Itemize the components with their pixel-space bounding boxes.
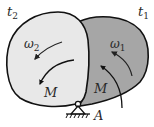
diagram-svg — [0, 0, 154, 127]
label-moment-right: M — [94, 82, 107, 95]
label-pivot-A: A — [94, 109, 103, 122]
label-moment-left: M — [44, 86, 57, 99]
label-t1: t1 — [138, 5, 149, 21]
label-omega1: ω1 — [110, 38, 126, 53]
label-t2: t2 — [7, 5, 18, 21]
diagram-canvas: t2 t1 ω2 ω1 M M A — [0, 0, 154, 127]
label-omega2: ω2 — [24, 38, 40, 53]
